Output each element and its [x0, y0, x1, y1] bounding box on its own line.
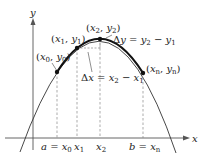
delta-x-annotation: Δx = x2 − x1 — [81, 72, 144, 85]
y-axis-arrow-icon — [31, 18, 36, 25]
point-pn — [141, 71, 145, 75]
y-axis-label: y — [29, 7, 36, 18]
x-axis-arrow-icon — [183, 136, 190, 141]
tick-label-b-xn: b = xn — [129, 141, 161, 154]
x-axis-label: x — [192, 133, 198, 144]
point-p2 — [98, 37, 102, 41]
tick-label-a-x0: a = x0 — [41, 141, 72, 154]
tick-label-x1: x1 — [74, 141, 84, 154]
tick-label-x2: x2 — [96, 141, 106, 154]
point-p0 — [55, 70, 59, 74]
point-p1 — [75, 46, 79, 50]
arc-length-diagram: x y (x0, y0) (x1, y1) (x2, y2) (xn, yn) … — [0, 0, 205, 167]
label-pn: (xn, yn) — [146, 63, 181, 76]
delta-y-annotation: Δy = y2 − y1 — [113, 34, 176, 47]
label-p1: (x1, y1) — [51, 33, 86, 46]
label-p0: (x0, y0) — [36, 51, 71, 64]
